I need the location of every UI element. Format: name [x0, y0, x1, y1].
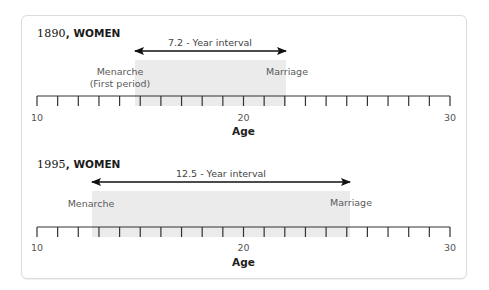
interval-shade: [135, 60, 286, 106]
panel-1890: 1890, WOMEN 7.2 - Year interval Menarche…: [31, 27, 456, 137]
axis-title: Age: [232, 125, 255, 137]
interval-label: 12.5 - Year interval: [176, 168, 266, 179]
interval-shade: [92, 191, 350, 237]
menarche-label: Menarche: [68, 198, 115, 209]
menarche-label: Menarche: [97, 66, 144, 77]
marriage-label: Marriage: [330, 197, 372, 208]
tick-label-20: 20: [237, 242, 249, 253]
tick-label-10: 10: [31, 112, 43, 123]
tick-label-10: 10: [31, 242, 43, 253]
age-axis: [37, 96, 450, 106]
panel-title: 1890, WOMEN: [37, 27, 120, 40]
timeline-diagram: 1890, WOMEN 7.2 - Year interval Menarche…: [0, 0, 489, 290]
panel-1995: 1995, WOMEN 12.5 - Year interval Menarch…: [31, 158, 456, 268]
panel-title: 1995, WOMEN: [37, 158, 120, 171]
interval-label: 7.2 - Year interval: [168, 37, 252, 48]
tick-label-30: 30: [444, 112, 456, 123]
axis-title: Age: [232, 256, 255, 268]
tick-label-20: 20: [237, 112, 249, 123]
tick-label-30: 30: [444, 242, 456, 253]
menarche-sublabel: (First period): [90, 78, 151, 89]
age-axis: [37, 227, 450, 237]
marriage-label: Marriage: [266, 66, 308, 77]
